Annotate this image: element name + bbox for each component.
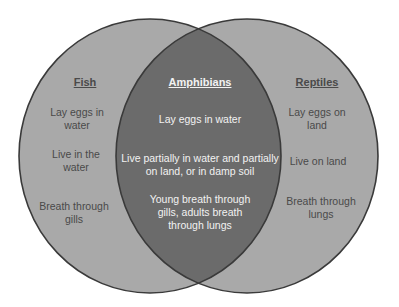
fish-item-3: Breath through gills — [32, 200, 116, 226]
amphibians-item-2: Live partially in water and partially on… — [120, 152, 280, 178]
fish-item-2: Live in the water — [42, 148, 110, 174]
amphibians-item-3: Young breath through gills, adults breat… — [140, 193, 260, 232]
reptiles-item-3: Breath through lungs — [285, 195, 357, 221]
fish-title: Fish — [50, 76, 120, 89]
reptiles-item-2: Live on land — [278, 155, 358, 168]
reptiles-title: Reptiles — [282, 76, 352, 89]
amphibians-title: Amphibians — [150, 76, 250, 89]
reptiles-item-1: Lay eggs on land — [282, 106, 352, 132]
fish-item-1: Lay eggs in water — [42, 106, 112, 132]
amphibians-item-1: Lay eggs in water — [140, 113, 260, 126]
